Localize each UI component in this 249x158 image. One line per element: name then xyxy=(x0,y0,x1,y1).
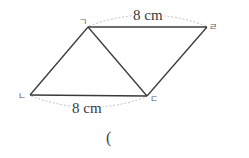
edge-right xyxy=(147,27,207,96)
diagonal xyxy=(88,27,147,96)
vertex-label-bottom-right: ㄷ xyxy=(150,95,158,104)
vertex-label-top-left: ㄱ xyxy=(79,18,87,27)
answer-open-paren: ( xyxy=(106,130,111,146)
vertex-label-top-right: ㄹ xyxy=(209,23,217,32)
bottom-measure-label: 8 cm xyxy=(71,101,103,116)
top-measure-label: 8 cm xyxy=(132,8,164,23)
vertex-label-bottom-left: ㄴ xyxy=(18,92,26,101)
edge-left xyxy=(30,27,88,95)
edge-bottom xyxy=(30,95,147,96)
